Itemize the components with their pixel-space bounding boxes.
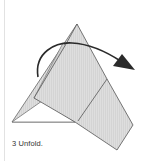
arrow-head-icon — [113, 54, 135, 70]
fold-diagram — [0, 0, 146, 161]
front-flap — [34, 24, 133, 150]
step-caption: 3 Unfold. — [12, 139, 43, 148]
